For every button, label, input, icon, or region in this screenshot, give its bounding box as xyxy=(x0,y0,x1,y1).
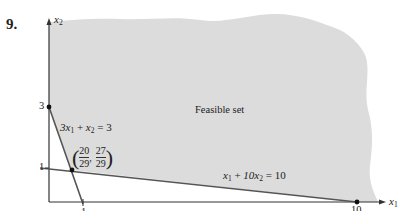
y-axis-arrow-icon xyxy=(47,18,52,25)
tick-label-x-1: 1 xyxy=(81,206,86,211)
c1-op: + xyxy=(74,121,86,133)
y-axis-label: x2 xyxy=(54,13,63,27)
c2-rhs: = 10 xyxy=(263,169,286,181)
intersection-label: (2029, 2729) xyxy=(72,146,113,169)
c1-term-a: 3x xyxy=(60,121,70,133)
constraint-label-1: 3x1 + x2 = 3 xyxy=(60,121,112,135)
tick-label-x-10: 10 xyxy=(351,204,362,211)
x-axis-arrow-icon xyxy=(379,200,386,205)
coord-separator: , xyxy=(89,152,92,163)
feasible-set-label: Feasible set xyxy=(195,104,244,115)
y-coordinate-fraction: 2729 xyxy=(96,146,106,169)
point-0-3 xyxy=(47,105,52,110)
right-paren: ) xyxy=(106,145,113,170)
tick-label-y-3: 3 xyxy=(39,100,44,111)
x-axis-label: x1 xyxy=(389,195,398,209)
x-axis-label-sub: 1 xyxy=(394,200,398,209)
x-coordinate-fraction: 2029 xyxy=(79,146,89,169)
x-num: 20 xyxy=(79,146,89,156)
left-paren: ( xyxy=(72,145,79,170)
y-num: 27 xyxy=(96,146,106,156)
c2-term-b: 10x xyxy=(243,169,259,181)
problem-number: 9. xyxy=(6,16,17,33)
y-den: 29 xyxy=(96,159,106,169)
x-den: 29 xyxy=(79,159,89,169)
c1-rhs: = 3 xyxy=(95,121,112,133)
c2-op: + xyxy=(232,169,244,181)
y-axis-label-sub: 2 xyxy=(59,18,63,27)
constraint-label-2: x1 + 10x2 = 10 xyxy=(223,169,286,183)
tick-label-y-1: 1 xyxy=(39,161,44,172)
